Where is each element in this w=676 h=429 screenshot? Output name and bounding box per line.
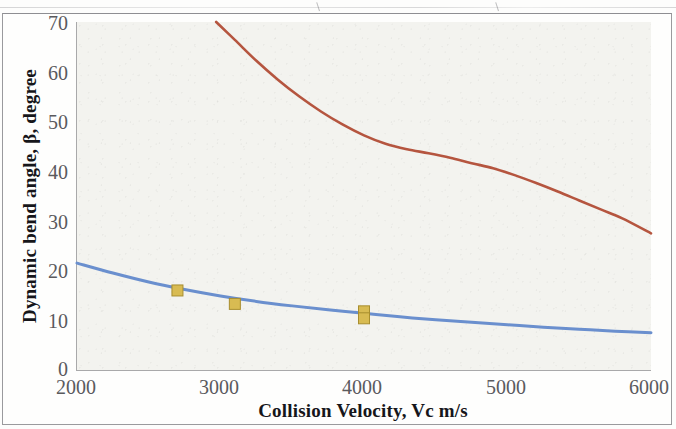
data-point-marker <box>359 313 370 324</box>
data-point-marker <box>172 285 183 296</box>
data-point-marker <box>229 298 240 309</box>
series-line-upper-curve <box>216 22 651 233</box>
scan-artifact-line <box>0 7 676 8</box>
plot-area <box>76 22 651 371</box>
chart-canvas <box>77 22 651 370</box>
chart-figure: 70 60 50 40 30 20 10 0 2000 3000 4000 50… <box>0 0 676 429</box>
y-axis-title: Dynamic bend angle, β, degree <box>19 16 41 376</box>
x-axis-title: Collision Velocity, Vc m/s <box>76 400 650 422</box>
